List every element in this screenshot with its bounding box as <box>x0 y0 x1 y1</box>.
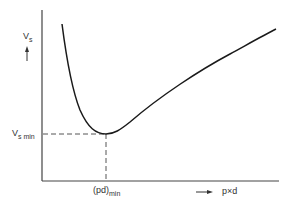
paschen-chart <box>0 0 291 207</box>
y-axis-label: Vs <box>23 32 33 41</box>
pd-min-label-main: (pd) <box>93 185 109 195</box>
vs-min-label: Vs min <box>12 129 35 138</box>
paschen-curve <box>62 24 276 134</box>
y-axis-arrow-icon <box>25 46 29 52</box>
pd-min-label-sub: min <box>109 190 120 197</box>
vs-min-label-sub: s min <box>18 133 35 140</box>
x-axis-arrow-icon <box>207 190 213 194</box>
y-axis-label-sub: s <box>29 36 33 43</box>
x-axis-label: p×d <box>222 187 237 196</box>
pd-min-label: (pd)min <box>93 186 120 195</box>
